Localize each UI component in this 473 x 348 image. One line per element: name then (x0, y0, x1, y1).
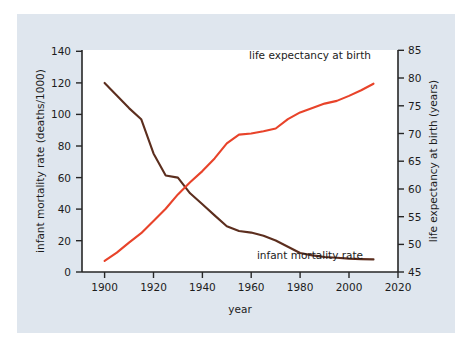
y-left-tick-0: 0 (64, 266, 71, 278)
x-tick-1960: 1960 (238, 281, 265, 293)
x-tick-1940: 1940 (189, 281, 216, 293)
y-right-tick-85: 85 (408, 44, 421, 56)
x-axis-ticks (105, 272, 398, 278)
y-left-tick-120: 120 (51, 77, 71, 89)
x-axis-tick-labels: 1900 1920 1940 1960 1980 2000 2020 (91, 281, 411, 293)
y-axis-right-tick-labels: 85 80 75 70 65 60 55 50 45 (408, 44, 421, 278)
y-left-tick-40: 40 (58, 203, 71, 215)
y-right-tick-55: 55 (408, 211, 421, 223)
y-right-tick-70: 70 (408, 128, 421, 140)
figure-canvas: 140 120 100 80 60 40 20 0 85 80 75 70 6 (0, 0, 473, 348)
y-left-tick-80: 80 (58, 140, 71, 152)
chart-plot: 140 120 100 80 60 40 20 0 85 80 75 70 6 (0, 0, 473, 348)
y-left-tick-140: 140 (51, 45, 71, 57)
y-right-tick-60: 60 (408, 183, 421, 195)
y-axis-left-tick-labels: 140 120 100 80 60 40 20 0 (51, 45, 71, 278)
y-right-tick-50: 50 (408, 238, 421, 250)
y-right-tick-45: 45 (408, 266, 421, 278)
y-left-tick-20: 20 (58, 235, 71, 247)
annotation-life-expectancy: life expectancy at birth (249, 49, 371, 61)
y-axis-right-title: life expectancy at birth (years) (427, 80, 439, 242)
x-tick-2020: 2020 (385, 281, 412, 293)
annotation-infant-mortality: infant mortality rate (257, 249, 363, 261)
y-left-tick-100: 100 (51, 108, 71, 120)
x-tick-1980: 1980 (287, 281, 314, 293)
y-left-tick-60: 60 (58, 172, 71, 184)
y-axis-left-title: infant mortality rate (deaths/1000) (34, 69, 46, 253)
x-tick-1900: 1900 (91, 281, 118, 293)
y-axis-left-ticks (76, 51, 82, 272)
x-tick-2000: 2000 (336, 281, 363, 293)
x-axis-title: year (228, 303, 252, 315)
plot-interior (82, 50, 398, 272)
y-right-tick-65: 65 (408, 155, 421, 167)
y-right-tick-75: 75 (408, 100, 421, 112)
x-tick-1920: 1920 (140, 281, 167, 293)
y-right-tick-80: 80 (408, 72, 421, 84)
y-axis-right-ticks (398, 50, 404, 272)
